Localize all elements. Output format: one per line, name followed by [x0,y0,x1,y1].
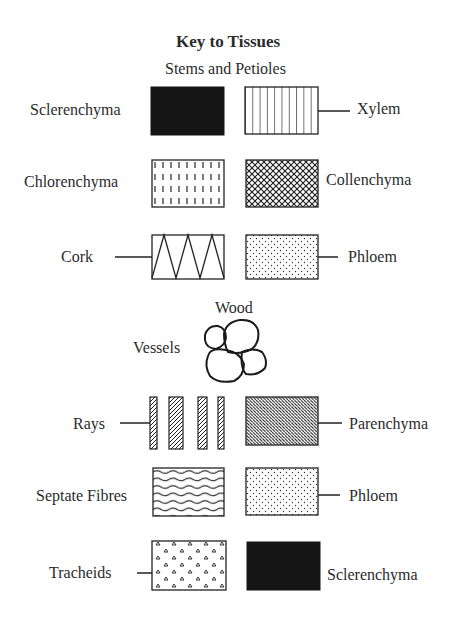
swatch-parenchyma [246,397,318,445]
swatch-phloem-wood [246,468,318,515]
swatch-septate-fibres [153,468,224,516]
ray-strip-4 [218,397,224,449]
swatch-chlorenchyma [152,160,224,207]
ray-strip-1 [150,397,157,449]
swatch-xylem [245,87,318,134]
tissue-key-diagram [0,0,472,625]
swatch-collenchyma [246,160,318,207]
ray-strip-2 [169,397,183,449]
swatch-sclerenchyma-wood [247,542,320,590]
vessels-cell-cluster [205,320,266,382]
swatch-sclerenchyma-stem [151,87,224,135]
ray-strip-3 [198,397,207,449]
swatch-tracheids [152,541,226,590]
swatch-phloem-stem [246,235,318,279]
